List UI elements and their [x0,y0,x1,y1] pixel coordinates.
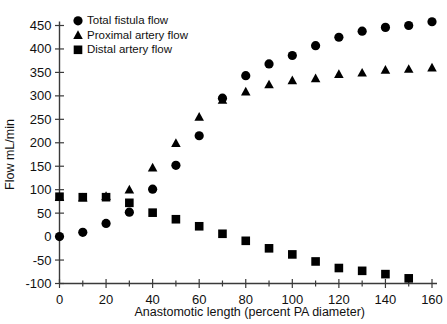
data-point [148,163,158,172]
data-point [381,270,390,279]
data-point [241,87,251,96]
data-point [171,138,181,147]
x-tick-label: 140 [375,292,397,307]
data-point [102,193,111,202]
data-point [125,199,134,208]
y-axis-title: Flow mL/min [3,119,17,190]
x-tick-label: 160 [421,292,443,307]
data-point [288,75,298,84]
data-point [78,193,87,202]
data-point [55,192,64,201]
flow-vs-anastomotic-length-chart: -100-50050100150200250300350400450020406… [0,0,447,324]
data-point [195,222,204,231]
data-point [265,244,274,253]
data-point [404,21,413,30]
data-point [381,65,391,74]
data-point [172,215,181,224]
data-point [288,51,297,60]
data-point [148,185,157,194]
legend-label: Distal artery flow [87,43,173,55]
y-tick-label: 250 [30,112,52,127]
legend: Total fistula flowProximal artery flowDi… [73,14,188,55]
x-tick-label: 20 [99,292,113,307]
series-square [55,192,413,282]
chart-canvas: -100-50050100150200250300350400450020406… [0,0,447,324]
data-point [358,27,367,36]
data-point [381,23,390,32]
data-point [78,228,87,237]
y-tick-label: 450 [30,18,52,33]
y-tick-label: 100 [30,182,52,197]
y-tick-label: 400 [30,41,52,56]
data-point [311,74,321,83]
data-point [335,264,344,273]
legend-label: Total fistula flow [87,14,169,26]
y-tick-label: 150 [30,159,52,174]
data-point [125,185,135,194]
legend-label: Proximal artery flow [87,29,189,41]
data-point [241,237,250,246]
data-point [427,17,436,26]
x-tick-label: 0 [56,292,63,307]
y-tick-label: 350 [30,65,52,80]
y-tick-label: 0 [44,229,51,244]
data-point [427,63,437,72]
legend-marker-triangle [73,30,83,39]
data-point [241,71,250,80]
data-point [357,68,367,77]
legend-marker-square [74,46,83,55]
data-point [194,112,204,121]
data-point [311,257,320,266]
data-point [288,250,297,259]
data-point [171,161,180,170]
x-axis-title: Anastomotic length (percent PA diameter) [135,305,365,319]
data-point [101,219,110,228]
data-point [264,59,273,68]
series-triangle [55,63,437,202]
data-point [358,267,367,276]
data-point [334,69,344,78]
y-tick-label: -50 [33,253,52,268]
y-tick-label: 300 [30,88,52,103]
data-point [195,131,204,140]
data-point [125,208,134,217]
data-point [334,33,343,42]
y-tick-label: -100 [25,276,51,291]
data-point [148,208,157,217]
data-point [264,80,274,89]
data-point [311,41,320,50]
data-point [218,229,227,238]
y-tick-label: 50 [37,206,51,221]
data-point [55,232,64,241]
data-point [404,274,413,283]
y-tick-label: 200 [30,135,52,150]
data-point [404,64,414,73]
legend-marker-circle [73,16,82,25]
